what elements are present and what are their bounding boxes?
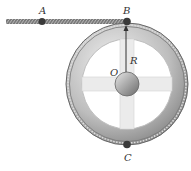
- rope: [6, 19, 128, 24]
- label-o: O: [110, 67, 118, 78]
- point-b-dot: [123, 18, 131, 26]
- point-c-dot: [123, 141, 131, 149]
- label-c: C: [124, 152, 132, 163]
- label-b: B: [122, 5, 130, 16]
- label-a: A: [38, 5, 46, 16]
- label-r: R: [129, 55, 138, 66]
- wheel-diagram: A B C O R: [0, 0, 191, 171]
- point-a-dot: [39, 18, 46, 25]
- wheel-hub: [115, 72, 139, 96]
